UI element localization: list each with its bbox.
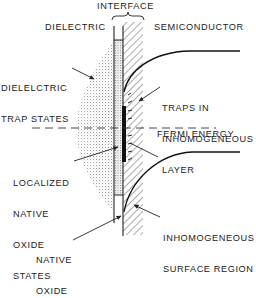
label-line: LAYER: [162, 165, 254, 175]
fermi-energy-label: FERMI ENERGY: [157, 129, 234, 139]
arrow-dielectric-traps: [72, 68, 94, 79]
arrow-native-oxide: [73, 216, 121, 240]
inhomogeneous-surface-region-label: INHOMOGENEOUS SURFACE REGION: [163, 212, 255, 285]
interface-bracket: [112, 12, 144, 20]
label-line: TRAP STATES: [1, 114, 69, 124]
interface-label: INTERFACE: [97, 1, 154, 11]
dielectric-trap-states-label: DIELELCTRIC TRAP STATES: [1, 62, 69, 135]
native-oxide-label: NATIVE OXIDE: [36, 234, 72, 298]
label-line: SURFACE REGION: [163, 264, 255, 274]
dielectric-label: DIELECTRIC: [45, 22, 106, 32]
label-line: NATIVE: [36, 255, 72, 265]
label-line: OXIDE: [36, 286, 72, 296]
label-line: LOCALIZED: [13, 178, 69, 188]
label-line: TRAPS IN: [162, 103, 254, 113]
localized-states-bar: [122, 106, 126, 162]
label-line: DIELELCTRIC: [1, 83, 69, 93]
label-line: INHOMOGENEOUS: [163, 233, 255, 243]
dielectric-trap-region: [76, 40, 114, 212]
semiconductor-label: SEMICONDUCTOR: [154, 22, 244, 32]
label-line: NATIVE: [13, 209, 69, 219]
native-oxide-layer: [114, 40, 123, 195]
